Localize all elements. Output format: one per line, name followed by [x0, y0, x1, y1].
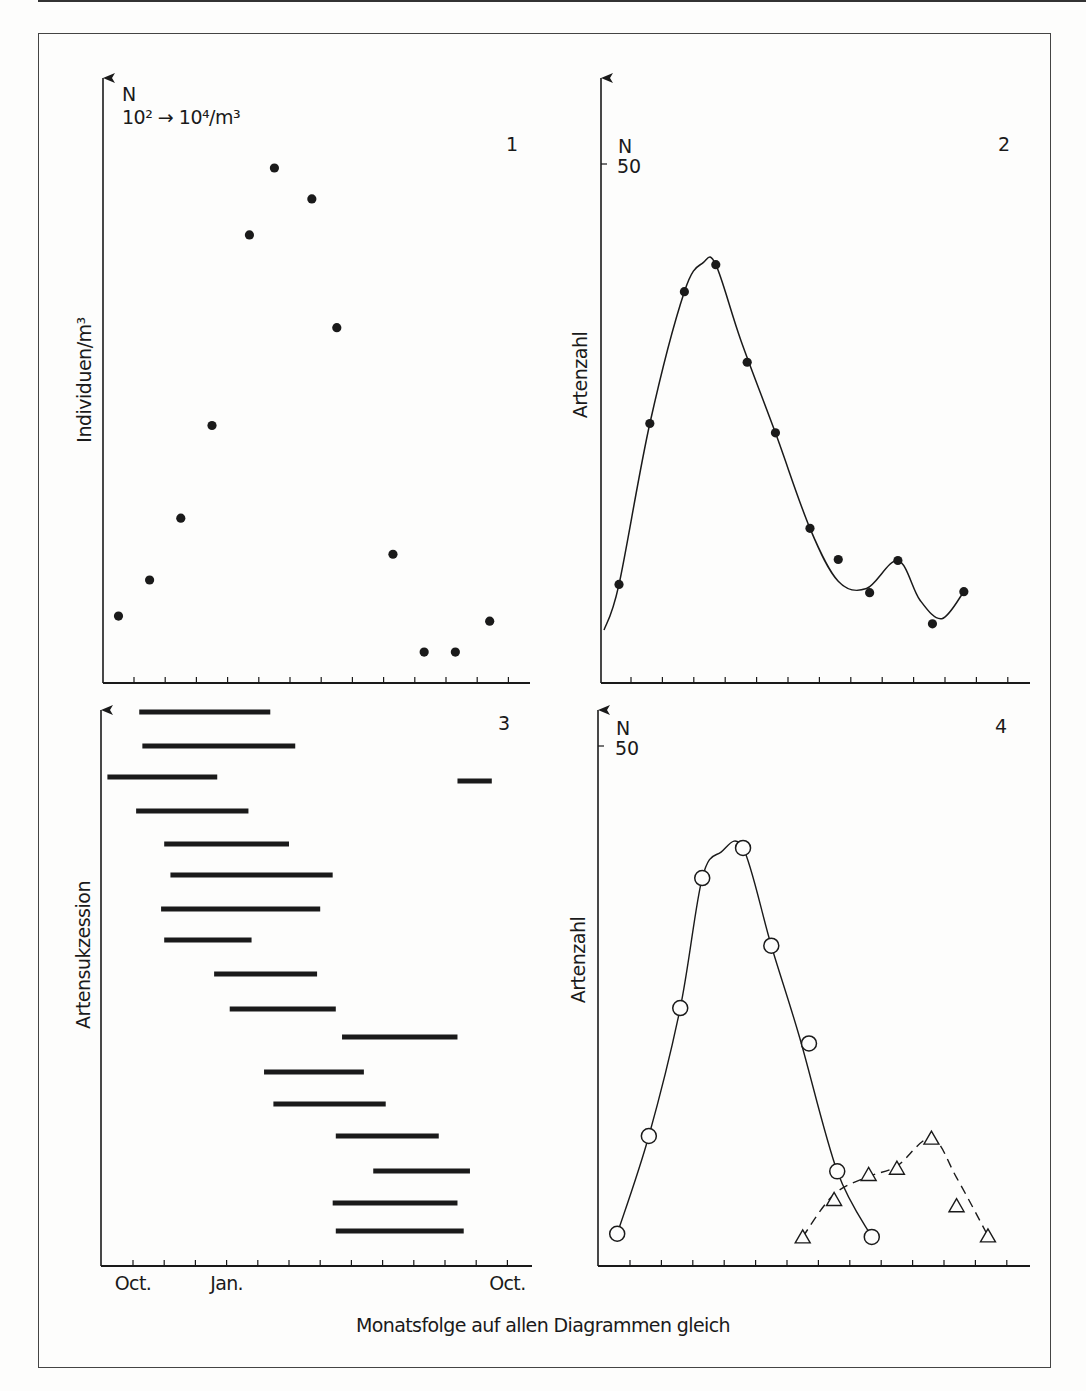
x-tick-label-2: Oct. [489, 1272, 526, 1294]
open-circle-marker [764, 938, 779, 953]
data-point [307, 194, 316, 203]
y-axis-label: Artenzahl [567, 917, 589, 1003]
open-circle-marker [673, 1001, 688, 1016]
data-point [680, 287, 689, 296]
open-circle-marker [736, 840, 751, 855]
y-axis-label: Artenzahl [569, 332, 591, 418]
y-axis-unit-n: N [618, 135, 632, 157]
open-triangle-marker [889, 1161, 904, 1174]
panel-label: 2 [998, 133, 1010, 155]
y-axis-label: Individuen/m³ [73, 317, 95, 442]
fit-curve [604, 257, 964, 630]
data-point [834, 555, 843, 564]
open-circle-marker [830, 1164, 845, 1179]
data-point [805, 524, 814, 533]
open-triangle-marker [980, 1229, 995, 1242]
data-point [614, 580, 623, 589]
open-circle-marker [695, 871, 710, 886]
x-tick-label-0: Oct. [115, 1272, 152, 1294]
panel-label: 4 [995, 715, 1007, 737]
data-point [245, 230, 254, 239]
chart-panel-4: N504Artenzahl [567, 710, 1030, 1266]
data-point [893, 556, 902, 565]
open-triangle-marker [795, 1230, 810, 1243]
y-axis-unit-n: N [616, 717, 630, 739]
data-point [771, 428, 780, 437]
data-point [451, 648, 460, 657]
data-point [711, 260, 720, 269]
open-triangle-marker [949, 1199, 964, 1212]
panel-label: 3 [498, 712, 510, 734]
data-point [114, 611, 123, 620]
data-point [645, 419, 654, 428]
y-axis-unit-n: N [122, 83, 136, 105]
open-circle-marker [801, 1036, 816, 1051]
data-point [420, 648, 429, 657]
data-point [388, 550, 397, 559]
x-tick-label-1: Jan. [209, 1272, 243, 1294]
panel-label: 1 [506, 133, 518, 155]
y-tick-label: 50 [615, 737, 639, 759]
y-axis-unit-range: 10² → 10⁴/m³ [122, 106, 240, 128]
data-point [743, 358, 752, 367]
y-axis-label: Artensukzession [72, 881, 94, 1029]
figure-canvas: N10² → 10⁴/m³1Individuen/m³ N502Artenzah… [0, 0, 1086, 1391]
x-axis-caption: Monatsfolge auf allen Diagrammen gleich [0, 1314, 1086, 1336]
y-tick-label: 50 [617, 155, 641, 177]
data-point [928, 619, 937, 628]
open-triangle-marker [924, 1131, 939, 1144]
data-point [176, 514, 185, 523]
data-point [332, 323, 341, 332]
chart-panel-3: 3ArtensukzessionOct.Jan.Oct. [72, 710, 532, 1294]
data-point [865, 588, 874, 597]
data-point [485, 617, 494, 626]
triangles-curve [803, 1138, 988, 1237]
open-circle-marker [610, 1226, 625, 1241]
chart-panel-2: N502Artenzahl [569, 78, 1030, 683]
open-circle-marker [641, 1129, 656, 1144]
data-point [145, 575, 154, 584]
data-point [207, 421, 216, 430]
chart-panel-1: N10² → 10⁴/m³1Individuen/m³ [73, 78, 530, 683]
open-circle-marker [864, 1229, 879, 1244]
data-point [270, 163, 279, 172]
data-point [959, 587, 968, 596]
